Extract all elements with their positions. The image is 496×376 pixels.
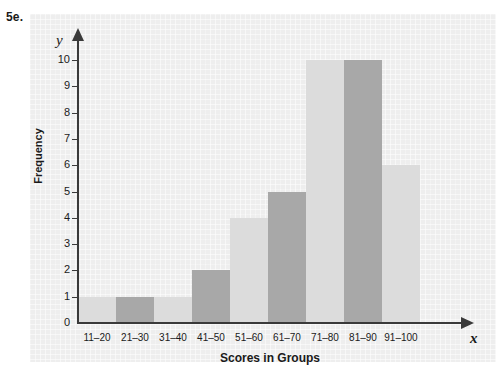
x-axis-tick-label: 81–90 [344, 332, 382, 343]
y-axis-tick-mark [72, 297, 77, 298]
y-axis-tick-label: 8 [48, 106, 70, 118]
x-axis-variable: x [470, 330, 478, 347]
y-axis-tick-mark [72, 113, 77, 114]
y-axis-tick-label: 0 [48, 316, 70, 328]
bar [116, 297, 154, 323]
x-axis-tick-label: 31–40 [154, 332, 192, 343]
bar [192, 270, 230, 323]
x-axis-title: Scores in Groups [77, 351, 463, 365]
x-axis-tick-label: 61–70 [268, 332, 306, 343]
y-axis-tick-mark [72, 244, 77, 245]
y-axis-variable: y [56, 32, 63, 49]
y-axis-tick-mark [72, 165, 77, 166]
y-axis-tick-label: 1 [48, 290, 70, 302]
y-axis-tick-label: 6 [48, 158, 70, 170]
y-axis-arrow-icon [72, 28, 84, 41]
bar [154, 297, 192, 323]
x-axis-tick-label: 51–60 [230, 332, 268, 343]
y-axis-tick-label: 3 [48, 237, 70, 249]
y-axis-tick-label: 5 [48, 185, 70, 197]
x-axis-tick-label: 21–30 [116, 332, 154, 343]
y-axis-tick-mark [72, 192, 77, 193]
x-axis-tick-label: 11–20 [78, 332, 116, 343]
bar [344, 60, 382, 323]
y-axis-tick-mark [72, 270, 77, 271]
y-axis-tick-label: 4 [48, 211, 70, 223]
bar [230, 218, 268, 323]
y-axis-tick-mark [72, 139, 77, 140]
y-axis-tick-mark [72, 218, 77, 219]
bar [382, 165, 420, 323]
x-axis-tick-label: 41–50 [192, 332, 230, 343]
bar [268, 192, 306, 324]
bar-series [0, 0, 496, 376]
y-axis-tick-label: 7 [48, 132, 70, 144]
y-axis-tick-mark [72, 86, 77, 87]
y-axis-tick-label: 9 [48, 79, 70, 91]
x-axis-tick-label: 71–80 [306, 332, 344, 343]
x-axis-arrow-icon [461, 317, 474, 329]
bar [78, 297, 116, 323]
y-axis-tick-label: 10 [48, 53, 70, 65]
y-axis-title: Frequency [32, 106, 44, 206]
bar [306, 60, 344, 323]
x-axis-tick-label: 91–100 [382, 332, 420, 343]
y-axis-tick-label: 2 [48, 263, 70, 275]
y-axis-tick-mark [72, 60, 77, 61]
figure-container: 5e. y x 109876543210 11–2021–3031–4041–5… [0, 0, 496, 376]
x-axis-line [77, 322, 463, 324]
y-axis-line [77, 40, 79, 324]
